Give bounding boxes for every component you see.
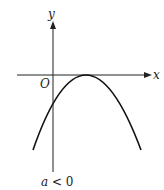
parabola-diagram: y x O a < 0 <box>0 0 164 190</box>
caption: a < 0 <box>41 175 73 189</box>
x-axis-label: x <box>153 68 160 82</box>
y-axis-label: y <box>47 7 55 21</box>
y-axis-arrow-icon <box>50 21 56 29</box>
origin-label: O <box>40 77 50 91</box>
x-axis-arrow-icon <box>144 72 152 78</box>
caption-variable: a <box>41 175 48 189</box>
caption-condition: < 0 <box>48 175 73 189</box>
